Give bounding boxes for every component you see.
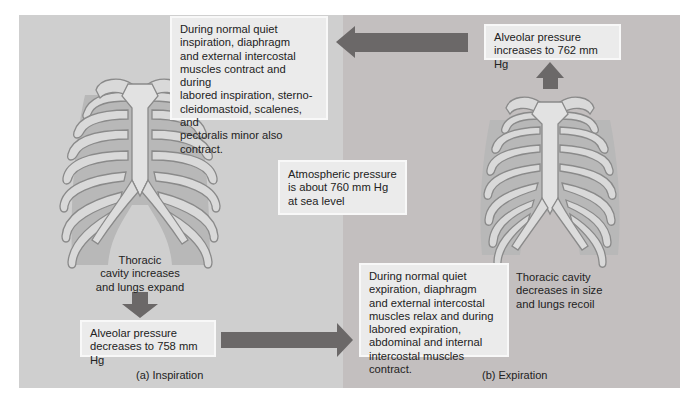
expiration-caption: (b) Expiration — [482, 369, 547, 381]
arrow-right-icon — [221, 323, 353, 357]
inspiration-pressure-note: Alveolar pressure decreases to 758 mm Hg — [80, 320, 216, 357]
inspiration-caption: (a) Inspiration — [136, 369, 203, 381]
expiration-cavity-note: Thoracic cavity decreases in size and lu… — [516, 271, 602, 311]
arrow-left-icon — [336, 26, 468, 58]
inspiration-muscle-note: During normal quiet inspiration, diaphra… — [170, 16, 328, 120]
arrow-up-icon — [536, 62, 564, 89]
inspiration-cavity-note: Thoracic cavity increases and lungs expa… — [72, 254, 208, 294]
ribcage-relaxed-icon — [480, 97, 619, 267]
arrow-down-icon — [122, 292, 158, 318]
atmospheric-pressure-note: Atmospheric pressure is about 760 mm Hg … — [278, 160, 407, 215]
expiration-pressure-note: Alveolar pressure increases to 762 mm Hg — [484, 24, 621, 60]
expiration-muscle-note: During normal quiet expiration, diaphrag… — [359, 263, 509, 357]
